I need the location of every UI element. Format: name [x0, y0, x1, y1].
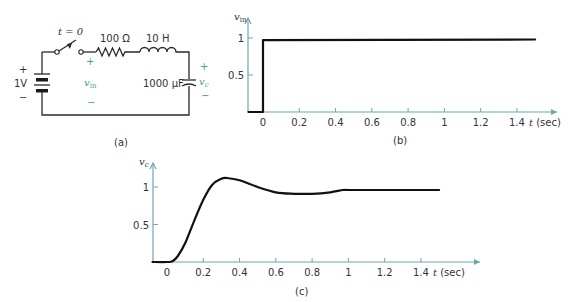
figure: + 1V − t = 0 100 Ω 10 H 1000 μF + vin − … — [0, 0, 576, 302]
capacitor-icon — [182, 80, 196, 86]
inductor-label: 10 H — [146, 33, 169, 44]
resistor-icon — [96, 48, 140, 56]
vin-plus: + — [86, 56, 94, 67]
source-plus: + — [19, 64, 27, 75]
inductor-icon — [140, 48, 189, 80]
y-tick-label: 0.5 — [133, 220, 149, 231]
capacitor-label: 1000 μF — [143, 78, 184, 89]
y-axis-label: vc — [139, 156, 149, 169]
source-minus: − — [19, 92, 27, 103]
x-tick-label: 0 — [260, 117, 266, 128]
resistor-label: 100 Ω — [100, 33, 130, 44]
circuit-diagram: + 1V − t = 0 100 Ω 10 H 1000 μF + vin − … — [14, 26, 209, 148]
x-tick-label: 0.6 — [268, 267, 284, 278]
x-tick-label: 1.2 — [473, 117, 489, 128]
caption-b: (b) — [393, 135, 407, 146]
y-tick-label: 1 — [238, 33, 244, 44]
x-tick-label: 0.4 — [232, 267, 248, 278]
x-tick-label: 0.4 — [328, 117, 344, 128]
x-axis-arrow-icon — [474, 259, 480, 265]
switch-icon — [55, 40, 83, 54]
caption-c: (c) — [295, 286, 308, 297]
x-tick-label: 1.4 — [509, 117, 525, 128]
chart-vin: 00.20.40.60.811.21.4t (sec)0.51vin — [228, 11, 561, 128]
x-tick-label: 0.8 — [400, 117, 416, 128]
x-tick-label: 0.6 — [364, 117, 380, 128]
vc-plus: + — [200, 61, 208, 72]
y-tick-label: 1 — [143, 182, 149, 193]
chart-vc: 00.20.40.60.811.21.4t (sec)0.51vc — [133, 156, 480, 278]
x-axis-label: t (sec) — [529, 117, 561, 128]
y-axis-label: vin — [234, 11, 247, 24]
x-axis-label: t (sec) — [433, 267, 465, 278]
x-tick-label: 0.2 — [195, 267, 211, 278]
x-axis-arrow-icon — [551, 109, 557, 115]
battery-icon — [34, 74, 50, 95]
x-tick-label: 0.8 — [304, 267, 320, 278]
switch-label: t = 0 — [58, 26, 84, 37]
x-tick-label: 1.4 — [413, 267, 429, 278]
caption-a: (a) — [114, 137, 128, 148]
series-line-v-c — [152, 178, 439, 262]
vin-label: vin — [84, 77, 97, 90]
x-tick-label: 0 — [164, 267, 170, 278]
source-label: 1V — [14, 78, 27, 89]
x-tick-label: 1.2 — [377, 267, 393, 278]
vc-label: vc — [199, 76, 209, 89]
vc-minus: − — [201, 90, 209, 101]
x-tick-label: 1 — [441, 117, 447, 128]
wire-bottom — [42, 86, 189, 115]
y-tick-label: 0.5 — [228, 70, 244, 81]
x-tick-label: 1 — [345, 267, 351, 278]
x-tick-label: 0.2 — [291, 117, 307, 128]
vin-minus: − — [87, 97, 95, 108]
series-line-v-in — [249, 40, 536, 113]
